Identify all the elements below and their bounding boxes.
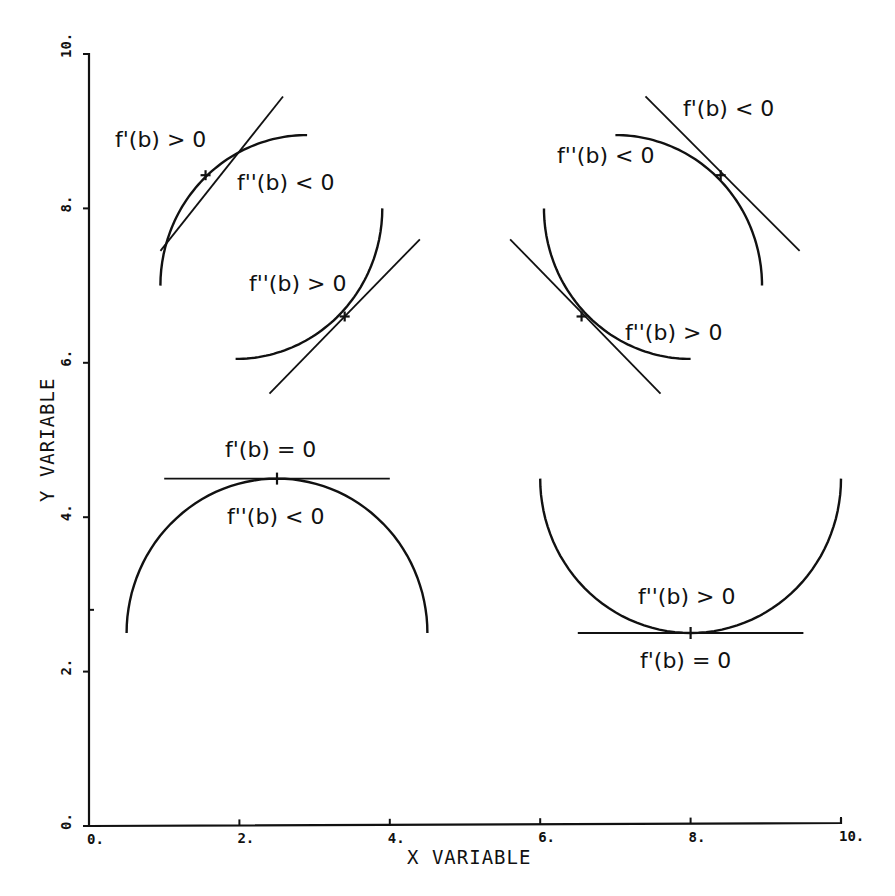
annotation-label: f''(b) < 0 — [237, 170, 334, 195]
curve-concave-decreasing — [615, 96, 799, 285]
y-tick-label: 2. — [58, 659, 74, 676]
annotation-label: f''(b) > 0 — [625, 320, 722, 345]
tangency-point-marker — [201, 170, 211, 180]
y-tick-label: 10. — [58, 33, 74, 58]
y-tick-label: 4. — [58, 504, 74, 521]
y-tick-label: 8. — [58, 196, 74, 213]
annotation-label: f''(b) < 0 — [557, 143, 654, 168]
x-axis-line — [89, 818, 841, 826]
annotation-label: f''(b) > 0 — [249, 271, 346, 296]
annotation-label: f'(b) > 0 — [115, 127, 206, 152]
curve-convex-increasing — [236, 208, 420, 393]
annotation-label: f'(b) = 0 — [225, 437, 316, 462]
annotation-label: f''(b) < 0 — [227, 504, 324, 529]
x-tick-label: 10. — [839, 828, 864, 844]
x-tick-label: 0. — [87, 831, 104, 847]
x-tick-label: 6. — [538, 829, 555, 845]
x-tick-label: 8. — [689, 829, 706, 845]
y-axis-title: Y VARIABLE — [36, 378, 58, 502]
y-tick-label: 6. — [58, 350, 74, 367]
curve-convex-decreasing — [510, 208, 690, 393]
series-group — [127, 96, 841, 639]
curve-maximum — [127, 473, 428, 633]
x-axis-title: X VARIABLE — [407, 846, 531, 868]
axes: 0.2.4.6.8.10.0.2.4.6.8.10. — [58, 33, 864, 847]
chart: 0.2.4.6.8.10.0.2.4.6.8.10. f'(b) > 0f''(… — [0, 0, 895, 896]
annotation-label: f'(b) < 0 — [683, 96, 774, 121]
arc-curve — [127, 479, 428, 633]
annotation-label: f''(b) > 0 — [638, 584, 735, 609]
annotation-label: f'(b) = 0 — [640, 648, 731, 673]
arc-curve — [540, 479, 841, 633]
y-tick-label: 0. — [58, 813, 74, 830]
x-tick-label: 4. — [388, 830, 405, 846]
curve-minimum — [540, 479, 841, 639]
x-tick-label: 2. — [237, 830, 254, 846]
y-axis-line — [83, 54, 89, 826]
